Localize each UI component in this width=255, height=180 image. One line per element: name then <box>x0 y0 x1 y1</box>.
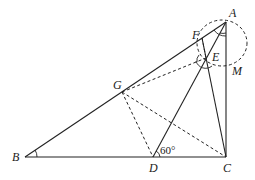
segment-AB <box>25 22 226 157</box>
angle-arc-B <box>35 150 37 157</box>
label-F: F <box>191 28 200 42</box>
segment-AD <box>153 22 226 157</box>
label-A: A <box>228 6 237 20</box>
label-D: D <box>148 161 158 175</box>
label-E: E <box>211 50 220 64</box>
label-B: B <box>12 150 20 164</box>
geometry-figure: A B C D E F G M 60° <box>0 0 255 180</box>
label-C: C <box>223 161 232 175</box>
label-M: M <box>231 64 243 78</box>
angle-label-60: 60° <box>160 144 175 156</box>
label-G: G <box>113 78 122 92</box>
